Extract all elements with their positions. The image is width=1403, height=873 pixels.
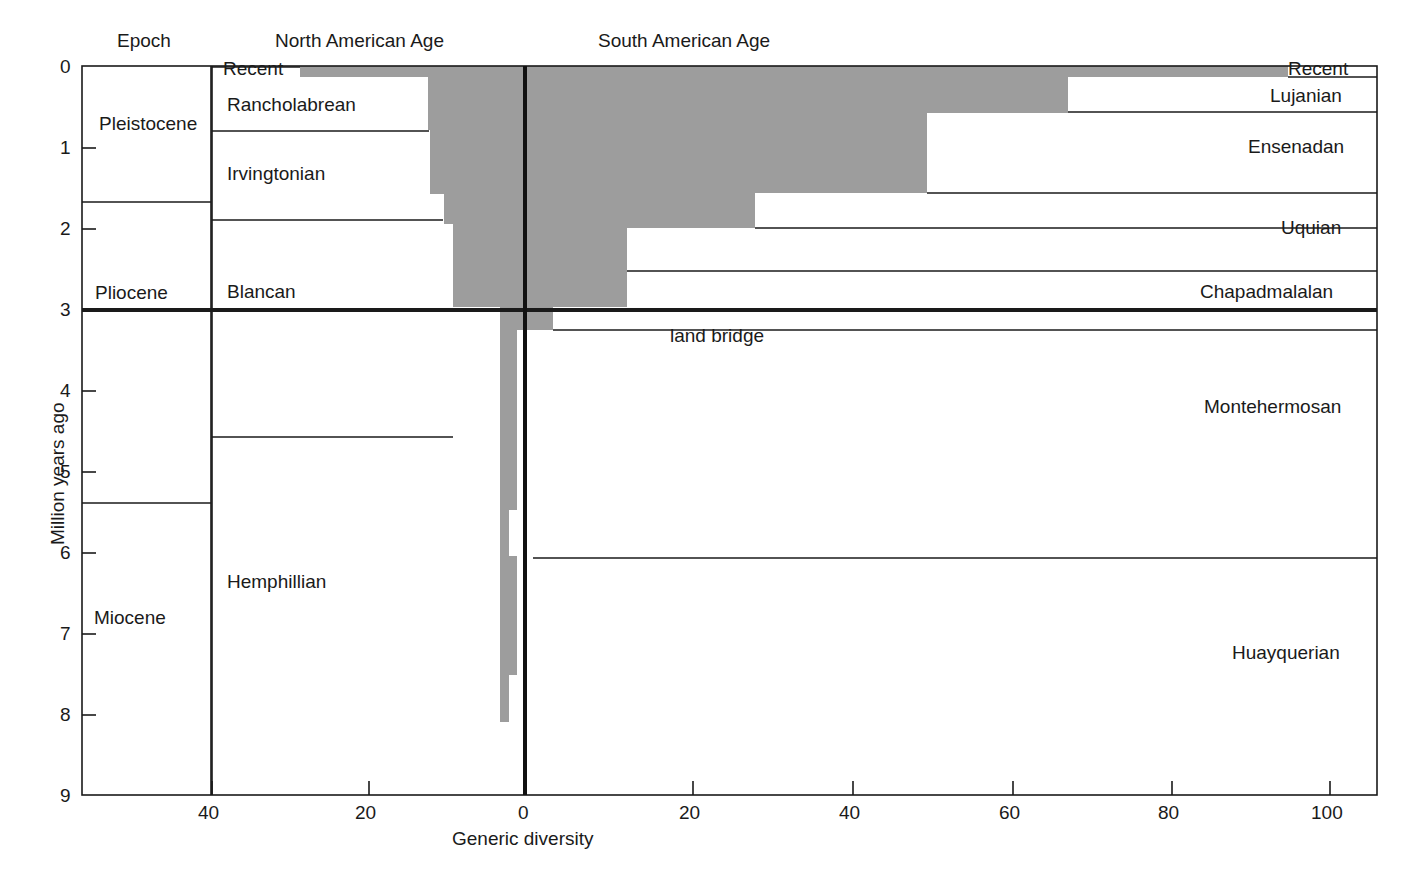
diversity-shaded-area — [300, 66, 1288, 722]
epoch-row-lines — [82, 202, 211, 503]
y-tick-label-0: 0 — [60, 56, 71, 78]
y-tick-label-6: 6 — [60, 542, 71, 564]
x-tick-label-left-20: 20 — [355, 802, 376, 824]
column-dividers — [211, 66, 212, 795]
column-header-north-american-age: North American Age — [275, 30, 444, 52]
y-axis-ticks — [82, 148, 96, 715]
y-tick-label-8: 8 — [60, 704, 71, 726]
x-tick-label-right-100: 100 — [1311, 802, 1343, 824]
diversity-chart: Epoch North American Age South American … — [0, 0, 1403, 873]
x-tick-label-zero: 0 — [518, 802, 529, 824]
column-header-south-american-age: South American Age — [598, 30, 770, 52]
epoch-label-miocene: Miocene — [94, 607, 166, 629]
x-axis-ticks — [212, 781, 1330, 795]
y-tick-label-7: 7 — [60, 623, 71, 645]
y-tick-label-9: 9 — [60, 785, 71, 807]
column-header-epoch: Epoch — [117, 30, 171, 52]
x-axis-title: Generic diversity — [452, 828, 594, 850]
sa-age-label-huayquerian: Huayquerian — [1232, 642, 1340, 664]
sa-age-label-lujanian: Lujanian — [1270, 85, 1342, 107]
land-bridge-annotation: land bridge — [670, 325, 764, 347]
sa-age-label-recent: Recent — [1288, 58, 1348, 80]
na-age-label-rancholabrean: Rancholabrean — [227, 94, 356, 116]
y-axis-title: Million years ago — [47, 402, 69, 545]
y-tick-label-1: 1 — [60, 137, 71, 159]
chart-canvas — [0, 0, 1403, 873]
epoch-label-pliocene: Pliocene — [95, 282, 168, 304]
sa-age-label-chapadmalalan: Chapadmalalan — [1200, 281, 1333, 303]
sa-age-label-uquian: Uquian — [1281, 217, 1341, 239]
x-tick-label-right-20: 20 — [679, 802, 700, 824]
x-tick-label-right-80: 80 — [1158, 802, 1179, 824]
epoch-label-pleistocene: Pleistocene — [99, 113, 197, 135]
x-tick-label-left-40: 40 — [198, 802, 219, 824]
na-age-row-lines — [212, 67, 453, 437]
na-age-label-irvingtonian: Irvingtonian — [227, 163, 325, 185]
na-age-label-hemphillian: Hemphillian — [227, 571, 326, 593]
sa-age-label-ensenadan: Ensenadan — [1248, 136, 1344, 158]
na-age-label-recent: Recent — [223, 58, 283, 80]
x-tick-label-right-40: 40 — [839, 802, 860, 824]
y-tick-label-2: 2 — [60, 218, 71, 240]
y-tick-label-4: 4 — [60, 380, 71, 402]
x-tick-label-right-60: 60 — [999, 802, 1020, 824]
y-tick-label-3: 3 — [60, 299, 71, 321]
na-age-label-blancan: Blancan — [227, 281, 296, 303]
sa-age-label-montehermosan: Montehermosan — [1204, 396, 1341, 418]
